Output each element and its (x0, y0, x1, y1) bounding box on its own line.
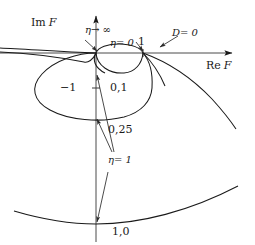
curve-left-strand-lower (0, 52, 96, 62)
tick-label-one: 1 (138, 36, 145, 47)
imaginary-axis-label: ImF (31, 17, 56, 28)
curve-1-0 (14, 186, 238, 224)
annotation-eta-one: η= 1 (108, 155, 132, 165)
tick-label-minus-one: −1 (60, 82, 76, 93)
annotation-d-zero: D= 0 (172, 28, 198, 38)
real-axis-label: ReF (206, 60, 231, 71)
curve-0-25-outer (35, 53, 152, 120)
real-axis-label-symbol: F (224, 59, 232, 72)
curve-label-0-25: 0,25 (108, 124, 133, 135)
annotation-eta-zero: η= 0 (110, 38, 134, 48)
curve-label-0-1: 0,1 (110, 82, 128, 93)
leader-eta-infinity (85, 40, 97, 51)
imaginary-axis-label-prefix: Im (31, 16, 46, 29)
curve-left-strand-upper (0, 48, 96, 53)
complex-plane-diagram: ImF ReF 1 −1 η→ ∞ η= 0 η= 1 D= 0 0,1 0,2… (0, 0, 255, 245)
annotation-eta-infinity: η→ ∞ (85, 25, 111, 35)
curve-label-1-0: 1,0 (112, 226, 130, 237)
real-axis-label-prefix: Re (206, 59, 221, 72)
imaginary-axis-label-symbol: F (49, 16, 57, 29)
curve-0-1-lower (96, 53, 143, 73)
leader-eta-one-to-1-0 (97, 172, 108, 222)
